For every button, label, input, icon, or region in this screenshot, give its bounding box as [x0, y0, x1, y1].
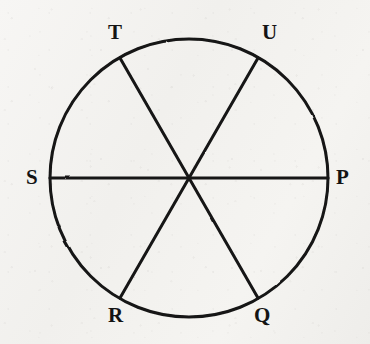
vertex-label-p: P [336, 167, 349, 188]
vertex-label-r: R [108, 305, 123, 326]
vertex-label-s: S [26, 167, 38, 188]
vertex-label-t: T [108, 22, 122, 43]
circle-diagram-canvas [0, 0, 370, 344]
vertex-label-u: U [262, 22, 277, 43]
geometry-figure: P U T S R Q [0, 0, 370, 344]
vertex-label-q: Q [254, 305, 271, 326]
ink-group [50, 39, 328, 317]
